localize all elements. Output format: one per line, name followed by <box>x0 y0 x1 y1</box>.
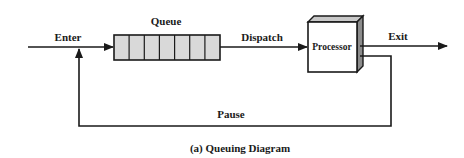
enter-label: Enter <box>55 31 82 43</box>
exit-label: Exit <box>388 30 408 42</box>
queue-box <box>114 35 220 60</box>
dispatch-label: Dispatch <box>241 31 283 43</box>
diagram-caption: (a) Queuing Diagram <box>190 142 290 155</box>
processor-label: Processor <box>312 42 352 52</box>
queuing-diagram: Enter Queue Dispatch Processor Exit <box>0 0 464 158</box>
pause-label: Pause <box>217 108 245 120</box>
queue-label: Queue <box>151 15 182 27</box>
